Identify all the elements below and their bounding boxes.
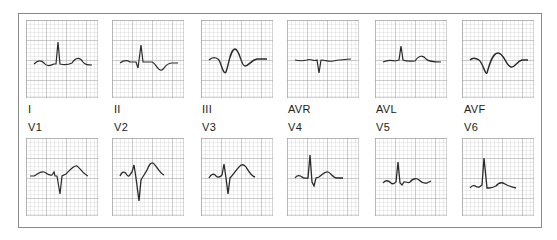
lead-label: AVF (464, 103, 485, 115)
lead-V4-strip (287, 138, 359, 216)
lead-label: I (28, 103, 31, 115)
lead-label: V2 (114, 121, 128, 133)
lead-AVL-strip (375, 20, 447, 98)
lead-label: V1 (28, 121, 42, 133)
lead-label: V4 (288, 121, 302, 133)
ecg-trace-lead-I (26, 20, 98, 98)
lead-label: III (202, 103, 212, 115)
lead-V5-strip (375, 138, 447, 216)
lead-label: V3 (202, 121, 216, 133)
lead-V3-strip (201, 138, 273, 216)
lead-V2-strip (112, 138, 184, 216)
lead-label: II (114, 103, 121, 115)
lead-label: AVR (288, 103, 311, 115)
lead-AVF-strip (462, 20, 534, 98)
lead-AVR-strip (287, 20, 359, 98)
lead-label: AVL (376, 103, 397, 115)
lead-II-strip (112, 20, 184, 98)
lead-V1-strip (26, 138, 98, 216)
lead-III-strip (201, 20, 273, 98)
lead-label: V5 (376, 121, 390, 133)
lead-V6-strip (462, 138, 534, 216)
lead-I-strip (26, 20, 98, 98)
lead-label: V6 (464, 121, 478, 133)
